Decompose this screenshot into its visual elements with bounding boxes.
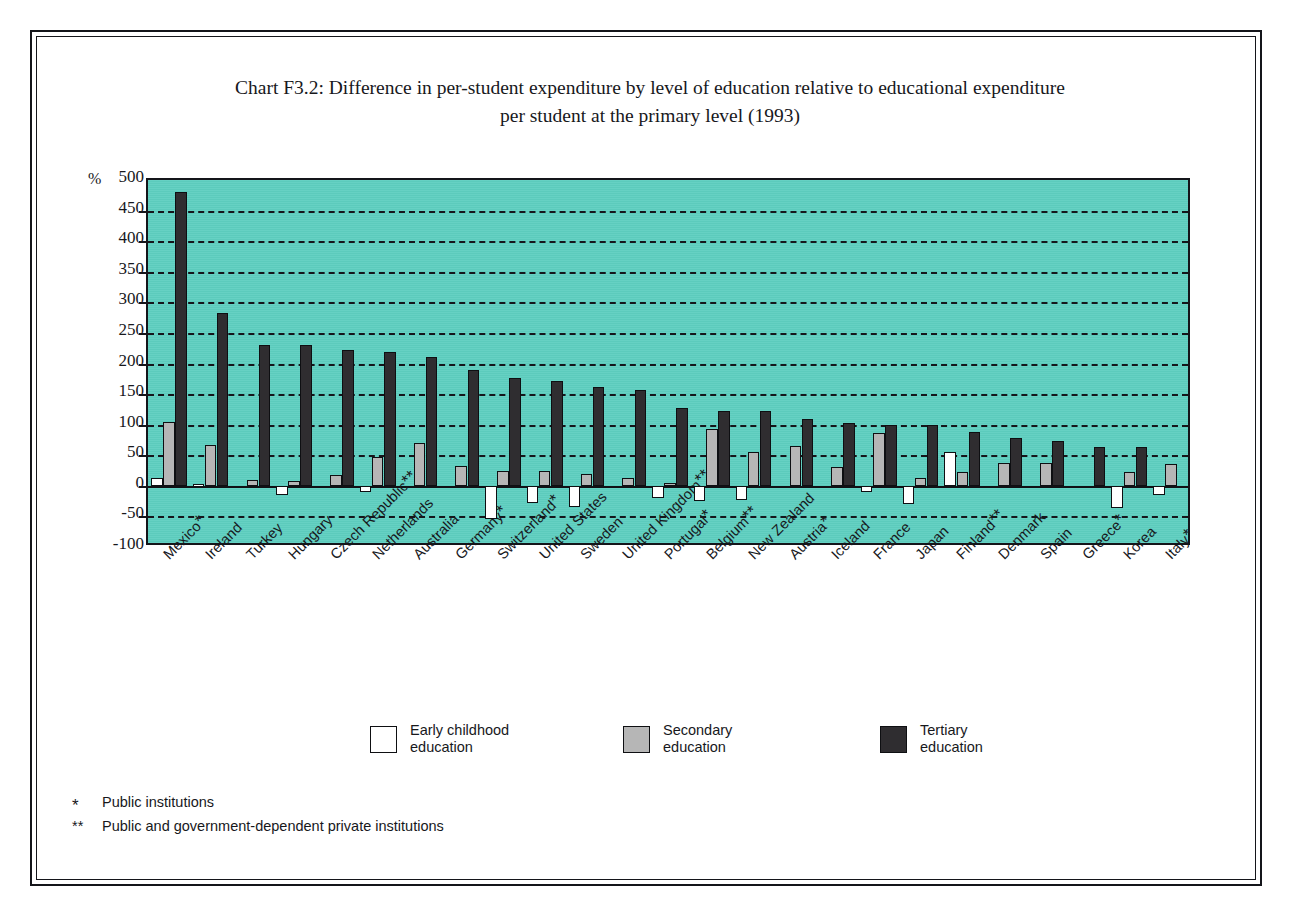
chart-title-line-1: Chart F3.2: Difference in per-student ex… bbox=[120, 74, 1180, 102]
bar-sec bbox=[748, 452, 760, 486]
y-tick-label: 400 bbox=[60, 228, 144, 248]
bar-sec bbox=[372, 457, 384, 486]
bar-early bbox=[1153, 486, 1165, 495]
bar-sec bbox=[998, 463, 1010, 486]
bar-ter bbox=[802, 419, 814, 486]
bar-ter bbox=[384, 352, 396, 485]
bar-ter bbox=[676, 408, 688, 486]
bar-sec bbox=[1124, 472, 1136, 486]
legend-label-line-1: Early childhood bbox=[410, 722, 509, 739]
x-axis-category-labels: Mexico*IrelandTurkeyHungaryCzech Republi… bbox=[146, 547, 1190, 667]
bar-ter bbox=[551, 381, 563, 486]
chart-legend: Early childhoodeducationSecondaryeducati… bbox=[370, 722, 990, 770]
legend-label-line-1: Secondary bbox=[663, 722, 732, 739]
legend-label-line-2: education bbox=[663, 739, 732, 756]
chart-title-line-2: per student at the primary level (1993) bbox=[120, 102, 1180, 130]
bar-early bbox=[944, 452, 956, 486]
y-tick-label: 300 bbox=[60, 289, 144, 309]
y-tick-label: 450 bbox=[60, 198, 144, 218]
legend-label-line-1: Tertiary bbox=[920, 722, 983, 739]
bar-group bbox=[1067, 180, 1109, 543]
bar-group bbox=[900, 180, 942, 543]
bar-sec bbox=[288, 481, 300, 486]
y-axis-tick bbox=[139, 241, 148, 243]
bar-ter bbox=[1052, 441, 1064, 486]
bar-sec bbox=[873, 433, 885, 486]
bar-sec bbox=[581, 474, 593, 486]
bar-ter bbox=[217, 313, 229, 485]
bar-early bbox=[861, 486, 873, 492]
bar-group bbox=[983, 180, 1025, 543]
bar-early bbox=[736, 486, 748, 500]
y-tick-label: 200 bbox=[60, 351, 144, 371]
bar-sec bbox=[622, 478, 634, 486]
bar-ter bbox=[718, 411, 730, 486]
bar-group bbox=[232, 180, 274, 543]
footnote-marker: ** bbox=[72, 818, 98, 834]
y-axis-tick bbox=[139, 333, 148, 335]
footnote-text: Public institutions bbox=[102, 794, 214, 810]
bar-sec bbox=[790, 446, 802, 486]
bar-group bbox=[1108, 180, 1150, 543]
legend-item[interactable]: Tertiaryeducation bbox=[880, 722, 983, 756]
legend-label-line-2: education bbox=[920, 739, 983, 756]
bar-group bbox=[273, 180, 315, 543]
bar-ter bbox=[175, 192, 187, 486]
bar-sec bbox=[205, 445, 217, 486]
legend-label: Early childhoodeducation bbox=[410, 722, 509, 756]
bar-group bbox=[566, 180, 608, 543]
bar-early bbox=[485, 486, 497, 520]
bar-sec bbox=[1040, 463, 1052, 486]
y-tick-label: 150 bbox=[60, 381, 144, 401]
y-tick-label: 250 bbox=[60, 320, 144, 340]
bar-sec bbox=[330, 475, 342, 485]
bar-sec bbox=[957, 472, 969, 485]
bar-sec bbox=[664, 483, 676, 486]
bar-sec bbox=[706, 429, 718, 486]
legend-label: Secondaryeducation bbox=[663, 722, 732, 756]
y-tick-label: 350 bbox=[60, 259, 144, 279]
bar-ter bbox=[635, 390, 647, 486]
y-tick-label: 500 bbox=[60, 167, 144, 187]
footnotes: *Public institutions**Public and governm… bbox=[72, 794, 772, 842]
bar-sec bbox=[163, 422, 175, 486]
y-tick-label: 50 bbox=[60, 442, 144, 462]
bar-early bbox=[569, 486, 581, 507]
bar-ter bbox=[509, 378, 521, 486]
y-axis-tick bbox=[139, 211, 148, 213]
tertiary-swatch bbox=[880, 726, 907, 753]
y-tick-label: -100 bbox=[60, 534, 144, 554]
secondary-swatch bbox=[623, 726, 650, 753]
bar-group bbox=[148, 180, 190, 543]
bar-group bbox=[190, 180, 232, 543]
bar-early bbox=[527, 486, 539, 503]
footnote-row: **Public and government-dependent privat… bbox=[72, 818, 772, 842]
legend-item[interactable]: Secondaryeducation bbox=[623, 722, 732, 756]
bar-ter bbox=[1136, 447, 1148, 486]
bar-group bbox=[607, 180, 649, 543]
bar-early bbox=[151, 478, 163, 486]
top-cropped-text-strip bbox=[0, 0, 1292, 26]
bar-ter bbox=[885, 425, 897, 486]
bar-group bbox=[816, 180, 858, 543]
footnote-marker: * bbox=[72, 796, 98, 816]
bar-group bbox=[1150, 180, 1192, 543]
bar-group bbox=[733, 180, 775, 543]
bar-early bbox=[193, 484, 205, 487]
bar-ter bbox=[760, 411, 772, 486]
y-axis-tick bbox=[139, 455, 148, 457]
y-axis-tick bbox=[139, 302, 148, 304]
y-axis-tick bbox=[139, 272, 148, 274]
y-tick-label: 100 bbox=[60, 412, 144, 432]
bar-ter bbox=[1094, 447, 1106, 486]
bar-early bbox=[1111, 486, 1123, 509]
bar-group bbox=[482, 180, 524, 543]
footnote-text: Public and government-dependent private … bbox=[102, 818, 444, 834]
early-childhood-swatch bbox=[370, 726, 397, 753]
bar-ter bbox=[300, 345, 312, 486]
bar-sec bbox=[1165, 464, 1177, 485]
legend-label-line-2: education bbox=[410, 739, 509, 756]
bar-early bbox=[903, 486, 915, 504]
bar-early bbox=[652, 486, 664, 498]
legend-item[interactable]: Early childhoodeducation bbox=[370, 722, 509, 756]
